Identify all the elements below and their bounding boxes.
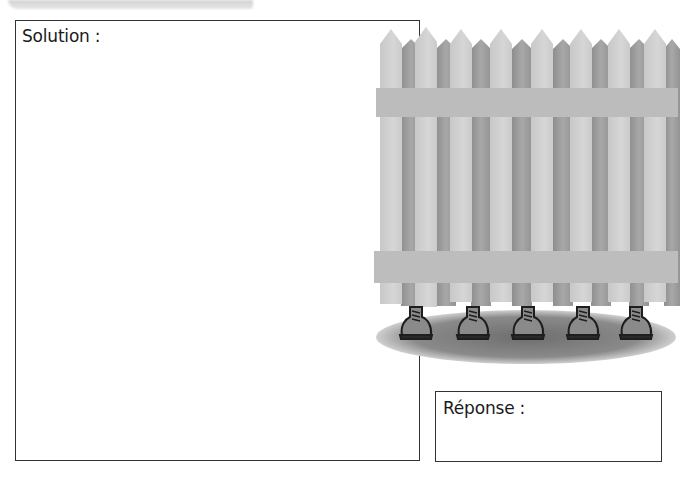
- answer-box[interactable]: Réponse :: [435, 391, 662, 462]
- solution-box[interactable]: Solution :: [15, 20, 420, 461]
- top-banner-decoration: [8, 0, 253, 9]
- solution-label: Solution :: [22, 26, 100, 46]
- fence-with-feet-icon: [370, 24, 686, 374]
- fence-illustration: [370, 24, 686, 374]
- answer-label: Réponse :: [443, 398, 525, 418]
